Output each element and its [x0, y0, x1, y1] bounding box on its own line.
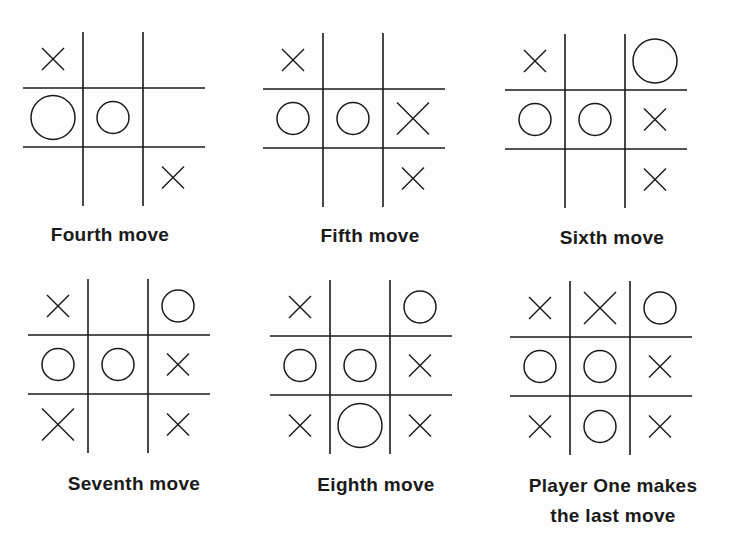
tic-tac-toe-board — [270, 278, 470, 463]
x-mark-icon — [524, 50, 546, 72]
o-mark-icon — [337, 103, 369, 135]
x-mark-icon — [167, 414, 189, 436]
caption: Fourth move — [0, 222, 225, 248]
o-mark-icon — [344, 350, 376, 382]
caption-line-2: the last move — [498, 503, 728, 529]
o-mark-icon — [284, 350, 316, 382]
x-mark-icon — [644, 169, 666, 191]
x-mark-icon — [584, 292, 616, 324]
o-mark-icon — [162, 290, 194, 322]
tic-tac-toe-board — [263, 31, 463, 216]
x-mark-icon — [402, 168, 424, 190]
tic-tac-toe-board — [28, 277, 228, 462]
tic-tac-toe-board — [23, 30, 223, 215]
o-mark-icon — [102, 349, 134, 381]
o-mark-icon — [584, 351, 616, 383]
x-mark-icon — [47, 295, 69, 317]
o-mark-icon — [584, 411, 616, 443]
o-mark-icon — [277, 103, 309, 135]
o-mark-icon — [338, 404, 382, 448]
tic-tac-toe-board — [510, 279, 710, 464]
tic-tac-toe-board — [505, 32, 705, 217]
x-mark-icon — [649, 416, 671, 438]
o-mark-icon — [519, 104, 551, 136]
o-mark-icon — [633, 39, 677, 83]
x-mark-icon — [42, 48, 64, 70]
x-mark-icon — [529, 297, 551, 319]
x-mark-icon — [167, 354, 189, 376]
x-mark-icon — [409, 355, 431, 377]
x-mark-icon — [282, 49, 304, 71]
o-mark-icon — [31, 96, 75, 140]
o-mark-icon — [42, 349, 74, 381]
o-mark-icon — [404, 291, 436, 323]
caption-line-1: Player One makes — [498, 473, 728, 499]
x-mark-icon — [289, 415, 311, 437]
x-mark-icon — [42, 409, 74, 441]
o-mark-icon — [524, 351, 556, 383]
x-mark-icon — [289, 296, 311, 318]
caption: Fifth move — [255, 223, 485, 249]
x-mark-icon — [162, 167, 184, 189]
caption: Seventh move — [19, 471, 249, 497]
x-mark-icon — [649, 356, 671, 378]
caption: Eighth move — [261, 472, 491, 498]
o-mark-icon — [97, 102, 129, 134]
caption: Sixth move — [497, 225, 727, 251]
o-mark-icon — [644, 292, 676, 324]
x-mark-icon — [409, 415, 431, 437]
x-mark-icon — [397, 103, 429, 135]
o-mark-icon — [579, 104, 611, 136]
x-mark-icon — [644, 109, 666, 131]
x-mark-icon — [529, 416, 551, 438]
